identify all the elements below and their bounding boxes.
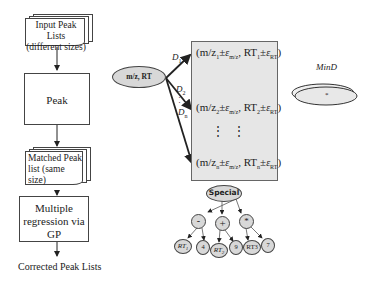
input-peak-lists-doc: Input Peak Lists (different sizes): [25, 14, 93, 48]
tuple-2: (m/z2±εm/z, RT2±εRT): [196, 101, 281, 115]
gp-leaf-rt2: RT2: [210, 243, 228, 258]
regression-box: Multiple regression via GP: [19, 196, 89, 242]
gp-leaf-rt3: RT3: [243, 240, 261, 255]
mind-marker: *: [325, 91, 329, 99]
gp-root-special: Special: [206, 185, 242, 202]
edge-ellipsis: ··: [178, 95, 181, 105]
gp-leaf-rt1: RT1: [174, 239, 192, 254]
regression-line1: Multiple: [20, 202, 88, 215]
matched-doc-line3: size): [28, 175, 82, 186]
gp-node-times: *: [239, 214, 254, 229]
matched-doc-line1: Matched Peak: [28, 153, 82, 164]
regression-line3: GP: [20, 228, 88, 241]
mz-rt-node: m/z, RT: [112, 66, 166, 88]
edge-label-dn: Dn: [178, 107, 188, 119]
mz-rt-label: m/z, RT: [126, 72, 152, 81]
matched-doc-line2: list (same: [28, 164, 82, 175]
corrected-peak-lists-label: Corrected Peak Lists: [18, 261, 101, 272]
gp-node-minus: -: [191, 214, 206, 229]
gp-leaf-7: 7: [261, 238, 275, 253]
tuple-ellipsis: ⋮ ⋮: [212, 124, 245, 139]
mind-label: MinD: [316, 62, 337, 72]
regression-line2: regression via: [20, 215, 88, 228]
input-doc-line1: Input Peak Lists: [26, 20, 86, 42]
gp-node-plus: +: [215, 216, 230, 231]
tuple-1: (m/z1±εm/z, RT1±εRT): [196, 46, 281, 60]
peak-matching-box: Peak Matching: [24, 73, 90, 125]
tuple-n: (m/zn±εm/z, RTn±εRT): [196, 156, 281, 170]
edge-label-d1: D1: [172, 52, 182, 64]
matched-peak-list-doc: Matched Peak list (same size): [25, 147, 93, 187]
input-doc-line2: (different sizes): [26, 42, 86, 53]
gp-leaf-9: 9: [229, 240, 243, 255]
gp-leaf-4: 4: [196, 240, 210, 255]
